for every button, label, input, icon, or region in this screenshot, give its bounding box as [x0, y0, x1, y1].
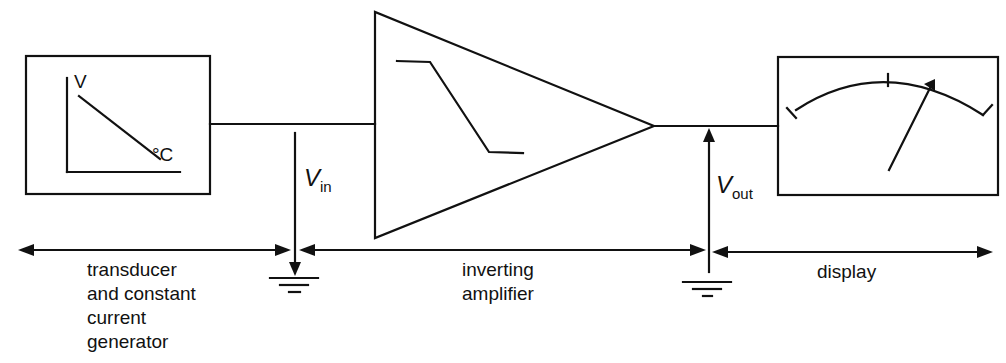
vin-indicator: Vin	[289, 133, 332, 276]
vout-indicator: Vout	[703, 128, 754, 272]
graph-curve	[79, 96, 160, 159]
amplifier-section-label: inverting amplifier	[462, 259, 539, 304]
display-meter-block	[778, 57, 998, 195]
ground-symbol-input	[270, 278, 318, 292]
meter-needle	[889, 88, 930, 170]
transducer-section-label: transducer and constant current generato…	[87, 259, 201, 352]
display-section-label: display	[817, 261, 877, 282]
section-dimension-arrows	[18, 244, 993, 258]
graph-y-label: V	[74, 71, 87, 92]
block-diagram: V °C Vin Vout	[0, 0, 1006, 363]
meter-scale-arc	[796, 82, 983, 115]
vout-label: Vout	[716, 171, 754, 202]
vin-arrowhead	[289, 262, 301, 276]
meter-scale-right-end	[983, 105, 992, 115]
amplifier-triangle	[375, 12, 654, 238]
inverting-amplifier-block	[375, 12, 654, 238]
vin-label: Vin	[304, 164, 332, 195]
vout-arrowhead	[703, 128, 715, 142]
transducer-block: V °C	[26, 56, 210, 194]
ground-symbol-output	[683, 282, 731, 296]
meter-scale-left-end	[787, 108, 796, 118]
graph-x-label: °C	[152, 144, 173, 165]
inverting-transfer-icon	[397, 61, 523, 153]
